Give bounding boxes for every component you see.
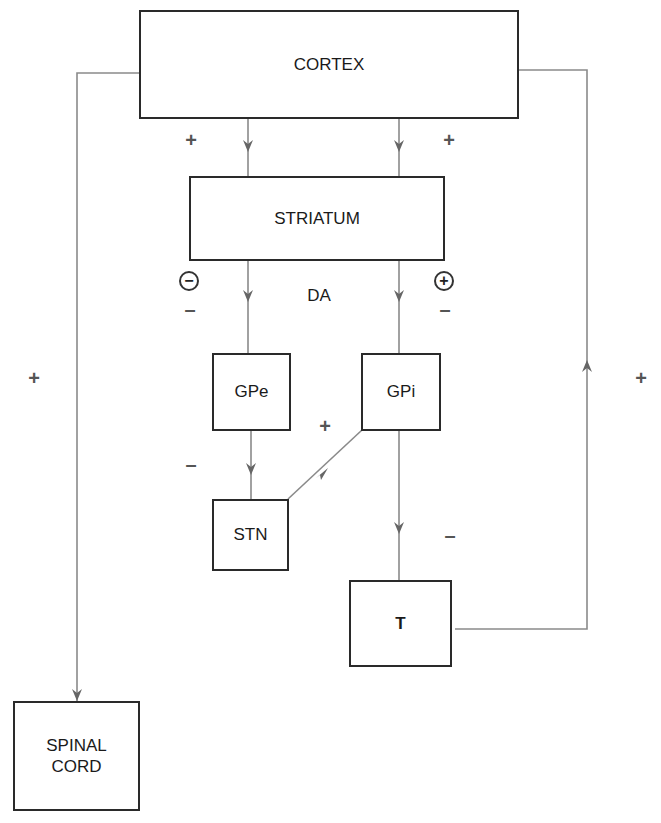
gpe-box: GPe bbox=[212, 353, 291, 431]
stn-box: STN bbox=[212, 499, 289, 571]
connection-lines bbox=[0, 0, 661, 823]
spinal-cord-label-line1: SPINAL bbox=[46, 735, 106, 756]
gpi-box: GPi bbox=[361, 353, 441, 431]
spinal-cord-label-line2: CORD bbox=[51, 756, 101, 777]
stn-label: STN bbox=[234, 524, 268, 545]
gpe-label: GPe bbox=[234, 381, 268, 402]
striatum-box: STRIATUM bbox=[189, 176, 445, 261]
thalamus-box: T bbox=[349, 580, 452, 667]
minus-sign: – bbox=[184, 299, 195, 319]
plus-sign: + bbox=[185, 130, 197, 150]
spinal-cord-box: SPINAL CORD bbox=[13, 701, 140, 811]
plus-sign: + bbox=[635, 368, 647, 388]
gpi-label: GPi bbox=[387, 381, 415, 402]
circled-plus-icon: + bbox=[434, 271, 454, 291]
minus-sign: – bbox=[185, 454, 196, 474]
plus-sign: + bbox=[28, 368, 40, 388]
minus-sign: – bbox=[444, 525, 455, 545]
striatum-label: STRIATUM bbox=[274, 208, 360, 229]
thalamus-label: T bbox=[395, 613, 405, 634]
da-label: DA bbox=[307, 286, 331, 306]
plus-sign: + bbox=[443, 130, 455, 150]
cortex-box: CORTEX bbox=[139, 10, 519, 119]
basal-ganglia-diagram: CORTEX STRIATUM GPe GPi STN T SPINAL COR… bbox=[0, 0, 661, 823]
arrowhead bbox=[316, 468, 328, 480]
plus-sign: + bbox=[319, 416, 331, 436]
minus-sign: – bbox=[439, 299, 450, 319]
circled-minus-icon: − bbox=[179, 271, 199, 291]
cortex-label: CORTEX bbox=[294, 54, 365, 75]
